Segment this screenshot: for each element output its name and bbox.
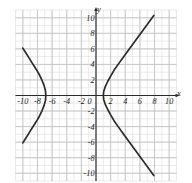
x-tick-label: -8 — [34, 97, 41, 106]
y-tick-label: 8 — [90, 29, 94, 38]
y-tick-label: 4 — [90, 60, 94, 69]
x-tick-label: 2 — [109, 97, 113, 106]
x-tick-label: 10 — [165, 97, 173, 106]
x-tick-label: 6 — [138, 97, 143, 106]
x-tick-label: -10 — [17, 97, 28, 106]
y-tick-label: -8 — [88, 154, 95, 163]
hyperbola-figure: -10-8-6-4-20246810-10-8-6-4-2246810 yx — [0, 0, 192, 183]
coordinate-plane: -10-8-6-4-20246810-10-8-6-4-2246810 yx — [0, 0, 192, 183]
y-tick-label: -4 — [88, 123, 95, 132]
x-axis-label: x — [176, 88, 181, 98]
y-axis-label: y — [96, 4, 101, 14]
x-tick-label: -4 — [63, 97, 70, 106]
y-tick-label: 6 — [90, 45, 95, 54]
y-tick-label: -2 — [88, 107, 95, 116]
x-tick-label: 4 — [123, 97, 127, 106]
x-tick-label: -6 — [49, 97, 57, 106]
y-tick-label: -10 — [84, 169, 95, 178]
y-tick-label: -6 — [88, 138, 96, 147]
x-tick-label: 8 — [152, 97, 156, 106]
x-tick-label: -2 — [78, 97, 85, 106]
y-tick-label: 10 — [86, 14, 94, 23]
x-tick-label: 0 — [87, 97, 91, 106]
y-tick-label: 2 — [90, 76, 94, 85]
